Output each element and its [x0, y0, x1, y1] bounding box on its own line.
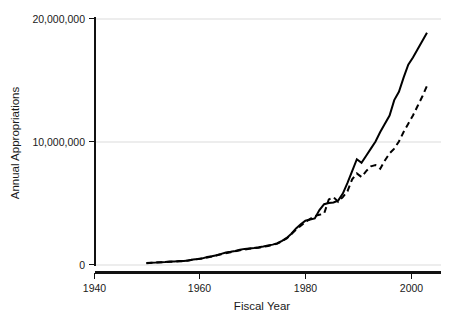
y-axis-title: Annual Appropriations — [9, 86, 21, 199]
y-tick-label-10000000: 10,000,000 — [32, 136, 85, 148]
x-tick-label-1960: 1960 — [188, 282, 212, 294]
y-tick-label-0: 0 — [79, 259, 85, 271]
x-tick-label-1940: 1940 — [83, 282, 107, 294]
x-axis-title: Fiscal Year — [234, 300, 290, 312]
series-group — [146, 33, 427, 264]
chart-figure: 20,000,000 10,000,000 0 Annual Appropria… — [0, 0, 460, 315]
x-tick-label-1980: 1980 — [294, 282, 318, 294]
series-solid-line — [146, 33, 427, 263]
y-tick-label-20000000: 20,000,000 — [32, 13, 85, 25]
x-tick-label-2000: 2000 — [400, 282, 424, 294]
line-chart: 20,000,000 10,000,000 0 Annual Appropria… — [0, 0, 460, 315]
x-axis: 1940 1960 1980 2000 Fiscal Year — [83, 273, 441, 313]
y-axis: 20,000,000 10,000,000 0 Annual Appropria… — [9, 13, 95, 271]
gridlines — [95, 19, 441, 265]
